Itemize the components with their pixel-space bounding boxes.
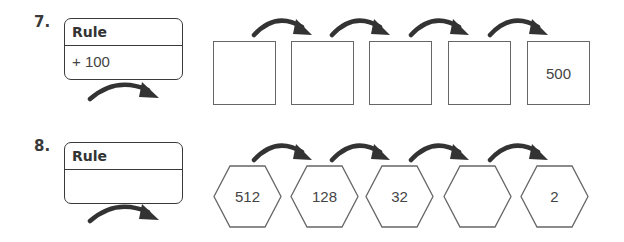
problem-7-cell-1[interactable] (213, 41, 276, 105)
problem-8-cell-4[interactable] (443, 165, 512, 228)
problem-7-cell-5: 500 (527, 41, 590, 105)
problem-8-rule-label: Rule (65, 143, 182, 170)
curved-arrow-right-icon (86, 200, 162, 224)
problem-8-cell-1: 512 (213, 165, 282, 228)
problem-8-cell-2: 128 (290, 165, 359, 228)
curved-arrow-right-icon (328, 140, 394, 164)
problem-7-cell-4[interactable] (448, 41, 511, 105)
curved-arrow-right-icon (486, 15, 552, 39)
problem-7-cell-3[interactable] (369, 41, 432, 105)
problem-8-cell-5: 2 (520, 165, 589, 228)
problem-8-cell-5-value: 2 (520, 165, 589, 228)
curved-arrow-right-icon (250, 15, 316, 39)
problem-8-cell-1-value: 512 (213, 165, 282, 228)
curved-arrow-right-icon (328, 15, 394, 39)
problem-8-number: 8. (34, 137, 50, 155)
problem-7-number: 7. (34, 13, 50, 31)
curved-arrow-right-icon (86, 78, 162, 102)
problem-8-cell-3: 32 (365, 165, 434, 228)
problem-7-cell-2[interactable] (291, 41, 354, 105)
problem-8-cell-3-value: 32 (365, 165, 434, 228)
curved-arrow-right-icon (250, 140, 316, 164)
curved-arrow-right-icon (407, 140, 473, 164)
problem-7-rule-box: Rule + 100 (64, 18, 183, 80)
curved-arrow-right-icon (486, 140, 552, 164)
problem-7-rule-label: Rule (65, 19, 182, 46)
curved-arrow-right-icon (407, 15, 473, 39)
problem-8-rule-box: Rule (64, 142, 183, 204)
problem-8-cell-2-value: 128 (290, 165, 359, 228)
problem-8-cell-4-value[interactable] (443, 165, 512, 228)
problem-7-rule-value[interactable]: + 100 (65, 46, 182, 78)
